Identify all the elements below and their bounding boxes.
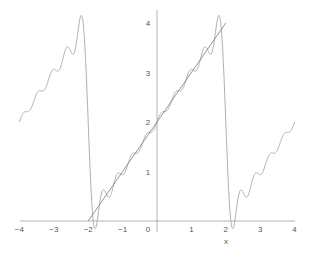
x-tick-label: 2 [224, 225, 229, 234]
x-axis-label: x [224, 237, 228, 246]
x-tick-label: 3 [258, 225, 263, 234]
x-tick-label: −2 [84, 225, 94, 234]
x-tick-label: 0 [146, 225, 151, 234]
x-tick-label: −1 [118, 225, 128, 234]
x-tick-label: −3 [49, 225, 59, 234]
x-tick-label: 4 [292, 225, 297, 234]
y-tick-label: 3 [146, 69, 151, 78]
axes: −4−3−2−101234 1234 x [15, 10, 298, 246]
y-tick-labels: 1234 [146, 19, 151, 177]
x-tick-label: −4 [15, 225, 25, 234]
y-tick-label: 1 [146, 168, 151, 177]
fourier-chart: −4−3−2−101234 1234 x [0, 0, 310, 254]
y-tick-label: 2 [146, 118, 151, 127]
x-tick-label: 1 [189, 225, 194, 234]
x-tick-labels: −4−3−2−101234 [15, 225, 298, 234]
y-tick-label: 4 [146, 19, 151, 28]
